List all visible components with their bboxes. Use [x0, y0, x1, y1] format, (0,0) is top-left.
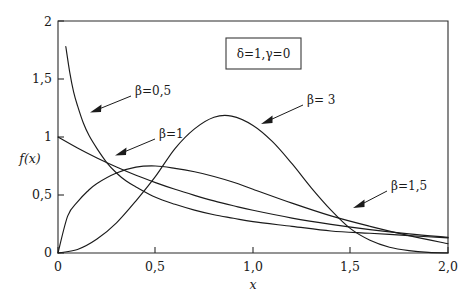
series-label-beta-1-5: β=1,5: [391, 179, 427, 193]
y-tick-label-1: 1: [44, 129, 52, 144]
y-tick-label-1-5: 1,5: [32, 71, 52, 86]
x-tick-label-1-5: 1,5: [340, 259, 360, 274]
x-tick-label-2-0: 2,0: [438, 259, 458, 274]
x-axis-title: x: [249, 277, 256, 292]
y-axis-title: f(x): [18, 151, 41, 166]
chart-canvas: 0 0,5 1 1,5 2 0 0,5 1,0 1,5 2,0 x f(x): [0, 0, 470, 296]
x-tick-label-0: 0: [54, 259, 62, 274]
series-label-beta-1: β=1: [159, 127, 184, 141]
x-tick-label-0-5: 0,5: [145, 259, 165, 274]
parameter-legend: δ=1,γ=0: [226, 38, 301, 69]
y-tick-label-0-5: 0,5: [32, 187, 52, 202]
legend-parameter-text: δ=1,γ=0: [237, 47, 291, 61]
y-tick-label-2: 2: [44, 14, 52, 29]
y-tick-label-0: 0: [44, 245, 52, 260]
weibull-pdf-figure: 0 0,5 1 1,5 2 0 0,5 1,0 1,5 2,0 x f(x): [0, 0, 470, 296]
series-label-beta-3: β= 3: [307, 93, 335, 107]
series-label-beta-0-5: β=0,5: [135, 84, 171, 98]
x-tick-label-1-0: 1,0: [243, 259, 263, 274]
